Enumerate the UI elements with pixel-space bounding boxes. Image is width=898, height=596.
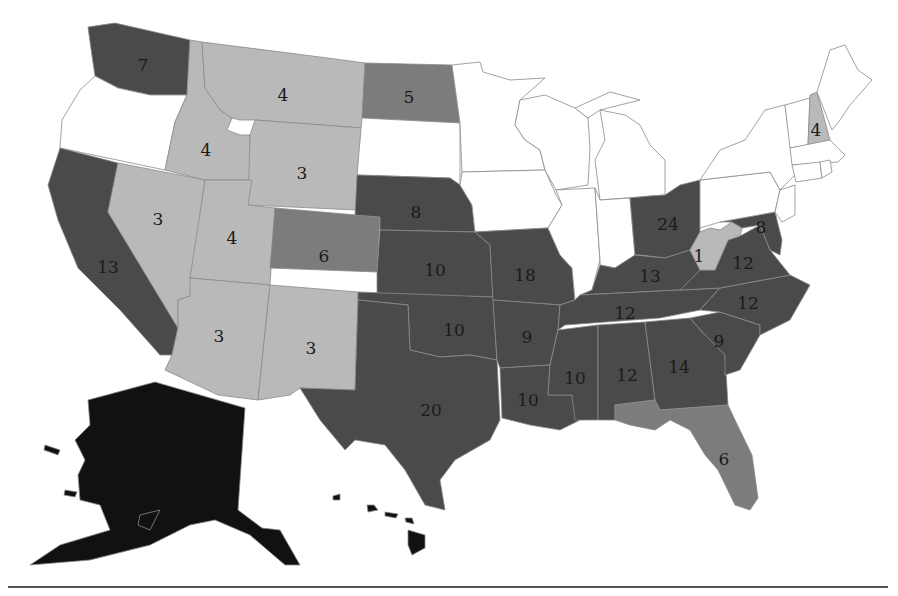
state-value-nv: 3	[153, 209, 164, 229]
state-rhode-island[interactable]	[820, 160, 832, 178]
state-connecticut[interactable]	[792, 162, 822, 182]
state-value-wv: 1	[694, 246, 705, 266]
state-value-tx: 20	[420, 400, 442, 420]
bottom-rule	[8, 586, 888, 588]
state-value-id: 4	[201, 140, 212, 160]
state-value-ky: 13	[639, 266, 661, 286]
state-value-tn: 12	[614, 303, 636, 323]
state-value-ut: 4	[227, 228, 238, 248]
state-value-al: 12	[616, 365, 638, 385]
state-iowa[interactable]	[460, 170, 562, 232]
state-value-va: 12	[732, 253, 754, 273]
state-value-wa: 7	[138, 55, 149, 75]
state-value-nh: 4	[811, 120, 822, 140]
state-value-nd: 5	[404, 87, 415, 107]
state-value-ne: 8	[411, 202, 422, 222]
state-value-nc: 12	[737, 293, 759, 313]
state-value-fl: 6	[719, 449, 730, 469]
state-value-ca: 13	[97, 257, 119, 277]
state-value-ga: 14	[668, 357, 690, 377]
state-value-sc: 9	[714, 331, 725, 351]
state-hawaii[interactable]	[333, 494, 425, 555]
state-florida[interactable]	[615, 400, 758, 510]
state-maine[interactable]	[817, 45, 872, 130]
state-value-nm: 3	[306, 338, 317, 358]
state-indiana[interactable]	[595, 188, 635, 268]
us-states-map: 7133443463358101020189102413121012146912…	[0, 0, 898, 596]
state-value-mo: 18	[514, 265, 536, 285]
state-value-ms: 10	[564, 368, 586, 388]
state-vermont[interactable]	[785, 98, 810, 148]
state-alaska[interactable]	[30, 382, 300, 565]
state-south-dakota[interactable]	[357, 118, 460, 185]
state-value-wy: 3	[297, 163, 308, 183]
state-value-oh: 24	[657, 214, 679, 234]
state-value-az: 3	[214, 326, 225, 346]
state-value-ok: 10	[443, 320, 465, 340]
state-value-md: 8	[756, 217, 767, 237]
state-value-ar: 9	[522, 327, 533, 347]
state-value-ks: 10	[424, 260, 446, 280]
state-value-co: 6	[319, 246, 330, 266]
state-value-mt: 4	[278, 85, 289, 105]
state-value-la: 10	[517, 390, 539, 410]
